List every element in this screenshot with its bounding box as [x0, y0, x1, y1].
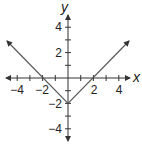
x-tick-label: 4	[116, 83, 123, 97]
y-tick-label: −4	[48, 122, 62, 136]
x-tick-label: −4	[10, 83, 24, 97]
y-tick-label: 4	[55, 20, 62, 34]
coordinate-plane: x y −4 −2 2 4 4 2 −2 −4	[0, 0, 142, 145]
y-tick-label: 2	[55, 46, 62, 60]
y-tick-label: −2	[48, 97, 62, 111]
x-axis-label: x	[132, 69, 141, 85]
y-axis-label: y	[60, 0, 69, 15]
x-tick-label: 2	[91, 83, 98, 97]
x-tick-label: −2	[35, 83, 49, 97]
